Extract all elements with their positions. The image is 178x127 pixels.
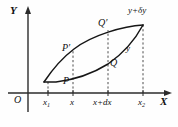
point-label-p: P xyxy=(63,76,69,86)
point-label-q-prime: Q′ xyxy=(98,18,107,28)
origin-label: O xyxy=(14,95,21,105)
x-axis-label: X xyxy=(160,96,167,107)
x-tick-label-x: x xyxy=(70,98,74,108)
curve-label-delta-y-part: δy xyxy=(138,5,146,15)
figure-canvas xyxy=(0,0,178,127)
x-tick-label-x2-sub: 2 xyxy=(142,102,145,108)
upper-curve-y-plus-delta-y xyxy=(44,25,143,82)
x-tick-label-x1: x1 xyxy=(43,98,50,108)
x-tick-label-x1-sub: 1 xyxy=(47,102,50,108)
point-label-p-prime: P′ xyxy=(62,43,70,53)
x-tick-label-x-plus-dx-main: x+dx xyxy=(93,97,112,107)
x-tick-label-x-main: x xyxy=(70,97,74,107)
math-figure: Y X O P P′ Q Q′ y y+δy x1 x x+dx x2 xyxy=(0,0,178,127)
y-axis-label: Y xyxy=(10,5,17,16)
curve-label-y: y xyxy=(126,44,130,53)
lower-curve-y xyxy=(44,25,143,82)
curve-label-y-plus-delta-y-main: y+ xyxy=(128,5,138,15)
curve-label-y-plus-delta-y: y+δy xyxy=(128,6,146,15)
x-tick-label-x2: x2 xyxy=(138,98,145,108)
x-axis xyxy=(8,90,172,96)
y-axis xyxy=(25,6,31,112)
x-tick-label-x-plus-dx: x+dx xyxy=(93,98,112,108)
point-label-q: Q xyxy=(110,58,117,68)
